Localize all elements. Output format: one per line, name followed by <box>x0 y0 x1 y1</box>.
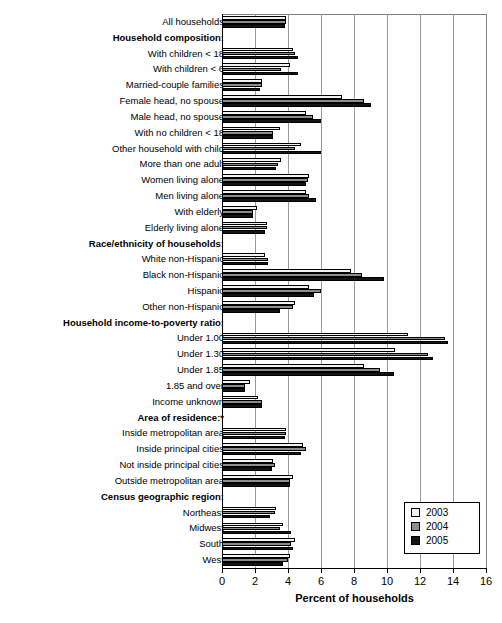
chart-row: Outside metropolitan area <box>0 473 502 489</box>
legend-item-2004: 2004 <box>411 521 479 532</box>
bar-2004 <box>222 447 306 451</box>
chart-row: Under 1.85 <box>0 362 502 378</box>
bar-2005 <box>222 88 260 92</box>
x-tick-12 <box>420 568 421 573</box>
x-tick-2 <box>255 568 256 573</box>
bar-2003 <box>222 380 250 384</box>
bar-2003 <box>222 174 309 178</box>
row-label: With children < 18 <box>2 48 224 59</box>
bar-2005 <box>222 404 262 408</box>
chart-row: More than one adult <box>0 156 502 172</box>
bar-2004 <box>222 163 278 167</box>
row-label: Married-couple families <box>2 79 224 90</box>
legend-swatch-2003 <box>411 508 420 517</box>
row-label: Hispanic <box>2 285 224 296</box>
bar-2005 <box>222 562 283 566</box>
chart-row: Income unknown <box>0 394 502 410</box>
x-tick-0 <box>222 568 223 573</box>
chart-row: With children < 18 <box>0 46 502 62</box>
x-tick-16 <box>486 568 487 573</box>
chart-row: With elderly <box>0 204 502 220</box>
row-label: Women living alone <box>2 174 224 185</box>
bar-2005 <box>222 277 384 281</box>
row-label: White non-Hispanic <box>2 253 224 264</box>
bar-2003 <box>222 269 351 273</box>
x-axis-title: Percent of households <box>222 592 487 604</box>
bar-2005 <box>222 151 321 155</box>
bar-2003 <box>222 364 364 368</box>
bar-2005 <box>222 119 321 123</box>
x-tick-label-10: 10 <box>372 575 402 587</box>
x-tick-label-8: 8 <box>339 575 369 587</box>
row-label: Elderly living alone <box>2 222 224 233</box>
bar-2004 <box>222 210 253 214</box>
bar-2004 <box>222 20 286 24</box>
bar-2005 <box>222 198 316 202</box>
chart-row: Female head, no spouse <box>0 93 502 109</box>
bar-2004 <box>222 226 267 230</box>
row-label: More than one adult <box>2 158 224 169</box>
legend-label-2005: 2005 <box>426 535 448 546</box>
row-label: Under 1.85 <box>2 364 224 375</box>
bar-2004 <box>222 115 313 119</box>
row-label: With children < 6 <box>2 63 224 74</box>
x-tick-10 <box>387 568 388 573</box>
x-tick-label-16: 16 <box>471 575 501 587</box>
x-tick-label-6: 6 <box>306 575 336 587</box>
bar-2004 <box>222 99 364 103</box>
row-label: Inside principal cities <box>2 443 224 454</box>
chart-row: Inside metropolitan area <box>0 426 502 442</box>
bar-2004 <box>222 147 295 151</box>
bar-2003 <box>222 459 273 463</box>
bar-2004 <box>222 83 262 87</box>
bar-2004 <box>222 337 445 341</box>
bar-2004 <box>222 542 291 546</box>
row-label: Under 1.30 <box>2 348 224 359</box>
bar-2005 <box>222 547 293 551</box>
row-label: West <box>2 554 224 565</box>
row-label: With elderly <box>2 206 224 217</box>
bar-2003 <box>222 143 301 147</box>
row-label: Female head, no spouse <box>2 95 224 106</box>
chart-row: Hispanic <box>0 283 502 299</box>
row-label: Income unknown <box>2 396 224 407</box>
chart-row: West <box>0 552 502 568</box>
bar-2003 <box>222 285 309 289</box>
chart-row: 1.85 and over <box>0 378 502 394</box>
bar-2004 <box>222 289 321 293</box>
bar-2003 <box>222 507 276 511</box>
bar-2004 <box>222 273 362 277</box>
legend-swatch-2004 <box>411 522 420 531</box>
row-label: Other household with child <box>2 143 224 154</box>
chart-container: 0246810121416 All householdsHousehold co… <box>0 0 502 623</box>
row-label: Northeast <box>2 507 224 518</box>
bar-2005 <box>222 341 448 345</box>
chart-row: Elderly living alone <box>0 220 502 236</box>
x-tick-label-0: 0 <box>207 575 237 587</box>
bar-2004 <box>222 384 245 388</box>
row-label: Midwest <box>2 522 224 533</box>
bar-2003 <box>222 348 395 352</box>
bar-2003 <box>222 554 290 558</box>
bar-2003 <box>222 222 267 226</box>
bar-2004 <box>222 368 380 372</box>
legend-label-2004: 2004 <box>426 521 448 532</box>
chart-row: Women living alone <box>0 172 502 188</box>
bar-2005 <box>222 372 394 376</box>
bar-2005 <box>222 515 270 519</box>
row-label: With no children < 18 <box>2 127 224 138</box>
row-label: Race/ethnicity of households: <box>2 238 224 249</box>
chart-row: Male head, no spouse <box>0 109 502 125</box>
chart-row: Other non-Hispanic <box>0 299 502 315</box>
bar-2003 <box>222 301 295 305</box>
chart-row: With no children < 18 <box>0 125 502 141</box>
bar-2005 <box>222 135 273 139</box>
x-tick-4 <box>288 568 289 573</box>
bar-2003 <box>222 206 257 210</box>
bar-2003 <box>222 63 290 67</box>
legend-swatch-2005 <box>411 536 420 545</box>
bar-2003 <box>222 523 283 527</box>
legend-item-2005: 2005 <box>411 535 479 546</box>
bar-2004 <box>222 400 262 404</box>
chart-row: Under 1.30 <box>0 346 502 362</box>
